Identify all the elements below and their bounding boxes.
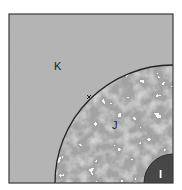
label-middle: J (112, 119, 118, 131)
diagram: K J I (0, 0, 182, 190)
label-inner: I (159, 168, 162, 180)
label-outer: K (54, 60, 62, 72)
